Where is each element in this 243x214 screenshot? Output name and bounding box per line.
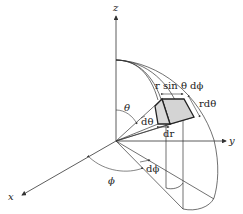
dtheta-label: dθ — [141, 117, 153, 127]
x-axis-label: x — [8, 192, 14, 202]
theta-label: θ — [124, 103, 130, 113]
y-axis-label: y — [229, 136, 235, 146]
z-axis-label: z — [113, 3, 118, 13]
volume-element — [155, 99, 194, 124]
r-sin-theta-dphi-label: r sin θ dϕ — [155, 81, 203, 91]
x-axis — [22, 141, 116, 195]
dr-label: dr — [163, 129, 174, 139]
spherical-coordinates-diagram: z y x θ dθ ϕ dϕ r sin θ dϕ rdθ dr — [0, 0, 243, 214]
phi-label: ϕ — [108, 176, 115, 186]
r-dtheta-label: rdθ — [199, 99, 216, 109]
equator-arcs — [116, 141, 214, 210]
dphi-label: dϕ — [146, 164, 159, 174]
